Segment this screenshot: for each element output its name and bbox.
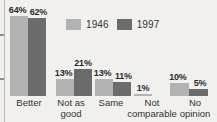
category-label-no-opinion: No opinion <box>174 97 216 119</box>
bar-value-not-comparable-1946: 1% <box>137 83 150 93</box>
category-axis: Better Not as good Same Not comparable N… <box>10 97 213 122</box>
scan-mark-lower <box>0 78 4 80</box>
bar-better-1946[interactable]: 64% <box>10 16 28 96</box>
bar-value-same-1946: 13% <box>94 68 111 78</box>
legend-label-1946: 1946 <box>86 19 109 30</box>
bar-no-opinion-1997[interactable]: 5% <box>189 89 208 96</box>
bar-same-1997[interactable]: 11% <box>113 82 131 96</box>
bar-not-comparable-1946[interactable]: 1% <box>134 94 152 96</box>
bar-value-no-opinion-1997: 5% <box>194 78 207 88</box>
chart-legend: 1946 1997 <box>66 19 159 30</box>
scan-mark-upper <box>0 34 4 36</box>
bar-no-opinion-1946[interactable]: 10% <box>170 83 189 96</box>
bar-value-better-1997: 62% <box>30 7 47 17</box>
bar-value-no-opinion-1946: 10% <box>169 72 186 82</box>
page-edge-artifact <box>4 0 5 122</box>
category-label-better: Better <box>8 97 50 108</box>
bar-value-not-as-good-1946: 13% <box>55 68 72 78</box>
bar-chart: 64% 62% 13% 21% 13% <box>0 0 217 122</box>
bar-same-1946[interactable]: 13% <box>95 79 113 96</box>
legend-swatch-1946-icon <box>66 19 81 30</box>
legend-label-1997: 1997 <box>137 19 160 30</box>
bar-not-as-good-1997[interactable]: 21% <box>74 69 92 96</box>
legend-entry-1997[interactable]: 1997 <box>117 19 160 30</box>
bar-better-1997[interactable]: 62% <box>28 18 46 96</box>
legend-swatch-1997-icon <box>117 19 132 30</box>
bar-value-better-1946: 64% <box>9 5 26 15</box>
bar-value-same-1997: 11% <box>115 71 132 81</box>
legend-entry-1946[interactable]: 1946 <box>66 19 109 30</box>
category-label-not-as-good: Not as good <box>50 97 92 119</box>
category-label-not-comparable: Not comparable <box>122 97 182 119</box>
bar-value-not-as-good-1997: 21% <box>74 58 91 68</box>
bar-not-as-good-1946[interactable]: 13% <box>56 79 74 96</box>
